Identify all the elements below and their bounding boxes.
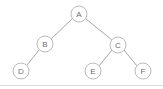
node-label-e: E: [90, 67, 95, 76]
tree-node-c[interactable]: C: [110, 37, 126, 53]
tree-node-b[interactable]: B: [37, 36, 53, 52]
tree-edge-a-c: [86, 19, 112, 40]
tree-node-d[interactable]: D: [13, 63, 29, 79]
tree-diagram-canvas: ABCDEF: [0, 0, 163, 89]
node-label-a: A: [76, 10, 82, 19]
node-label-f: F: [141, 67, 146, 76]
tree-edge-c-f: [124, 50, 137, 66]
tree-edge-b-d: [27, 50, 39, 65]
tree-node-f[interactable]: F: [135, 63, 151, 79]
tree-node-a[interactable]: A: [71, 6, 87, 22]
tree-node-e[interactable]: E: [85, 63, 101, 79]
tree-edge-a-b: [51, 19, 72, 39]
tree-edge-c-e: [99, 50, 112, 66]
node-label-d: D: [18, 67, 24, 76]
node-label-c: C: [115, 41, 121, 50]
nodes-group: ABCDEF: [13, 6, 151, 79]
binary-tree-graphic: ABCDEF: [0, 0, 163, 89]
node-label-b: B: [42, 40, 47, 49]
